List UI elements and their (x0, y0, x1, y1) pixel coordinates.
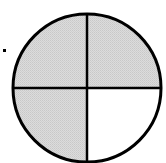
list-marker-dot (3, 49, 6, 52)
fraction-circle-diagram (0, 0, 166, 163)
